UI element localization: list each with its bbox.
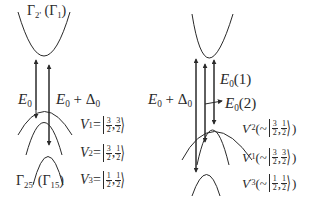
label-e0-plus-delta-right: E0 + Δ0 xyxy=(148,92,192,110)
left-valence-band-v1-heavy xyxy=(18,112,72,136)
state-v3-left: V3 = 12, 12 ⟩ xyxy=(80,171,126,189)
valence-band-label-left: Γ25' (Γ15) xyxy=(16,174,64,190)
conduction-band-label-left: Γ2' (Γ1) xyxy=(27,4,66,20)
right-conduction-band xyxy=(192,14,233,58)
label-e0-left: E0 xyxy=(18,92,32,110)
label-e0-plus-delta-left: E0 + Δ0 xyxy=(56,92,100,110)
label-e0-1-right: E0(1) xyxy=(220,72,251,90)
state-v3-prime-right: V'3 (~ 12, 12 ⟩) xyxy=(242,174,296,192)
state-v2-left: V2 = 32, 12 ⟩ xyxy=(80,144,126,162)
left-valence-band-v1-light xyxy=(26,123,62,156)
state-v1-left: V1 = 32, 32 ⟩ xyxy=(80,116,126,134)
right-valence-band-v3 xyxy=(192,175,220,197)
state-v1-prime-right: V'1 (~ 32, 32 ⟩) xyxy=(242,148,296,166)
label-e0-2-right: E0(2) xyxy=(225,96,256,114)
state-v2-prime-right: V'2 (~ 32, 12 ⟩) xyxy=(242,119,296,137)
